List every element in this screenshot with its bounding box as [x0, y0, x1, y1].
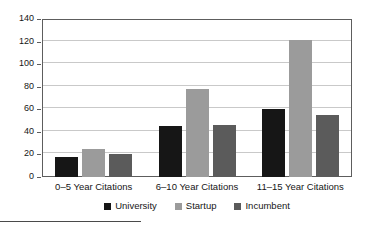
legend-item-university: University	[104, 201, 157, 211]
y-tick-mark-20	[37, 154, 41, 155]
legend-swatch-university-icon	[104, 203, 111, 210]
chart-legend: UniversityStartupIncumbent	[42, 199, 352, 213]
bar-university-group-1	[55, 157, 78, 177]
x-tick-label-1: 0–5 Year Citations	[39, 181, 149, 193]
legend-swatch-startup-icon	[175, 203, 182, 210]
bar-university-group-2	[159, 126, 182, 177]
legend-label-incumbent: Incumbent	[245, 201, 289, 211]
legend-item-incumbent: Incumbent	[234, 201, 289, 211]
x-tick-label-2: 6–10 Year Citations	[142, 181, 252, 193]
y-tick-label-80: 80	[6, 82, 34, 91]
y-tick-mark-0	[37, 177, 41, 178]
legend-item-startup: Startup	[175, 201, 217, 211]
legend-label-university: University	[115, 201, 157, 211]
y-tick-label-40: 40	[6, 127, 34, 136]
y-tick-mark-40	[37, 132, 41, 133]
legend-label-startup: Startup	[186, 201, 217, 211]
y-tick-label-100: 100	[6, 59, 34, 68]
legend-swatch-incumbent-icon	[234, 203, 241, 210]
bar-incumbent-group-3	[316, 115, 339, 177]
footnote-separator-rule	[0, 221, 141, 222]
y-tick-mark-80	[37, 87, 41, 88]
citations-bar-chart-figure: 020406080100120140 0–5 Year Citations6–1…	[0, 0, 370, 232]
y-tick-mark-60	[37, 109, 41, 110]
x-axis: 0–5 Year Citations6–10 Year Citations11–…	[42, 181, 352, 197]
bar-university-group-3	[262, 109, 285, 177]
y-tick-mark-120	[37, 42, 41, 43]
y-tick-mark-140	[37, 19, 41, 20]
y-axis: 020406080100120140	[0, 0, 42, 196]
y-tick-label-20: 20	[6, 149, 34, 158]
y-tick-label-140: 140	[6, 14, 34, 23]
y-tick-label-120: 120	[6, 37, 34, 46]
y-tick-label-60: 60	[6, 104, 34, 113]
y-tick-label-0: 0	[6, 172, 34, 181]
bar-startup-group-2	[186, 89, 209, 177]
bars-layer	[42, 19, 352, 177]
bar-incumbent-group-2	[213, 125, 236, 177]
bar-startup-group-1	[82, 149, 105, 177]
bar-startup-group-3	[289, 40, 312, 177]
y-tick-mark-100	[37, 64, 41, 65]
x-tick-label-3: 11–15 Year Citations	[245, 181, 355, 193]
bar-incumbent-group-1	[109, 154, 132, 177]
